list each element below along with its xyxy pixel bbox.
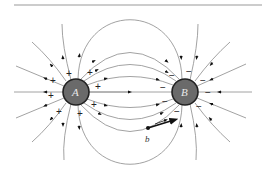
svg-text:−: − [200, 75, 206, 86]
charge-a: A [63, 79, 89, 105]
svg-text:−: − [196, 101, 202, 112]
svg-text:−: − [162, 96, 168, 107]
svg-text:−: − [160, 82, 166, 93]
svg-text:+: + [50, 75, 56, 86]
svg-text:−: − [174, 106, 180, 117]
svg-text:+: + [91, 99, 97, 110]
svg-text:+: + [56, 106, 62, 117]
svg-text:−: − [205, 87, 211, 98]
svg-text:+: + [95, 81, 101, 92]
charge-b-label: B [181, 86, 188, 98]
svg-text:+: + [48, 90, 54, 101]
svg-text:+: + [77, 108, 83, 119]
electric-field-diagram: b A B + + + + + + + + − − − − − − − − [0, 0, 270, 172]
point-b-marker [146, 126, 150, 130]
svg-text:−: − [169, 70, 175, 81]
charge-b: B [172, 79, 198, 105]
svg-text:+: + [66, 68, 72, 79]
point-b-label: b [145, 134, 150, 144]
svg-text:−: − [186, 66, 192, 77]
charge-a-label: A [71, 86, 79, 98]
svg-text:+: + [87, 67, 93, 78]
